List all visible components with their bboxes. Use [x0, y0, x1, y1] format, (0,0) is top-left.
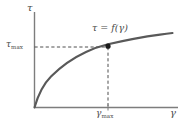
- y-axis-label: τ: [27, 3, 33, 13]
- tau-max-label: τmax: [6, 40, 23, 49]
- curve-equation-label: τ = f(γ): [92, 23, 128, 33]
- tau-max-subscript: max: [11, 44, 23, 50]
- x-axis-label: γ: [170, 108, 176, 118]
- shear-stress-strain-figure: τ τmax τ = f(γ) γmax γ: [0, 0, 185, 124]
- stress-strain-curve: [35, 33, 173, 108]
- tau-max-data-point: [105, 44, 110, 49]
- gamma-max-subscript: max: [101, 113, 113, 119]
- plot-canvas: [0, 0, 185, 124]
- gamma-max-label: γmax: [96, 109, 114, 118]
